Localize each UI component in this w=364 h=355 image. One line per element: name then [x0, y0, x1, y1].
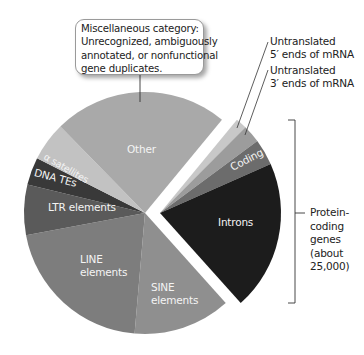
- utr5-annotation: Untranslated 5′ ends of mRNA: [270, 35, 354, 61]
- protein-coding-annotation: Protein- coding genes (about 25,000): [310, 206, 349, 274]
- utr3-annotation: Untranslated 3′ ends of mRNA: [270, 64, 354, 90]
- label-line-2: elements: [80, 266, 127, 279]
- bracket-line: 25,000): [310, 260, 349, 274]
- utr5-leader-line: [237, 42, 268, 128]
- bracket-line: genes: [310, 233, 349, 247]
- label-sine-1: SINE: [151, 281, 198, 294]
- label-line-1: LINE: [80, 253, 127, 266]
- label-sine-2: elements: [151, 294, 198, 307]
- label-introns: Introns: [218, 216, 253, 229]
- callout-line: annotated, or nonfunctional: [81, 49, 203, 62]
- label-sine: SINE elements: [151, 281, 198, 307]
- utr5-line: 5′ ends of mRNA: [270, 48, 354, 61]
- utr3-leader-line: [245, 70, 268, 135]
- bracket-line: (about: [310, 247, 349, 261]
- label-line: LINE elements: [80, 253, 127, 279]
- bracket-line: coding: [310, 220, 349, 234]
- callout-line: Miscellaneous category:: [81, 22, 203, 35]
- callout-line: gene duplicates.: [81, 62, 203, 75]
- utr3-line: 3′ ends of mRNA: [270, 77, 354, 90]
- callout-line: Unrecognized, ambiguously: [81, 35, 203, 48]
- label-ltr: LTR elements: [48, 201, 116, 214]
- protein-coding-bracket: [288, 120, 305, 303]
- utr3-line: Untranslated: [270, 64, 354, 77]
- label-other: Other: [127, 143, 156, 156]
- misc-category-callout: Miscellaneous category: Unrecognized, am…: [75, 19, 204, 75]
- bracket-line: Protein-: [310, 206, 349, 220]
- utr5-line: Untranslated: [270, 35, 354, 48]
